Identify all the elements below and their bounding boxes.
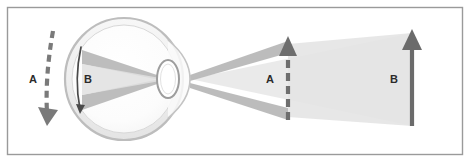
label-retina-arc: B [84, 73, 92, 85]
label-far-object: B [390, 73, 398, 85]
eye-optics-figure: B A A B [0, 0, 470, 162]
label-retinal-image-direction: A [29, 73, 37, 85]
lens-inner-highlight [161, 64, 176, 94]
label-near-object: A [266, 73, 274, 85]
diagram-canvas: B A A B [0, 0, 470, 162]
